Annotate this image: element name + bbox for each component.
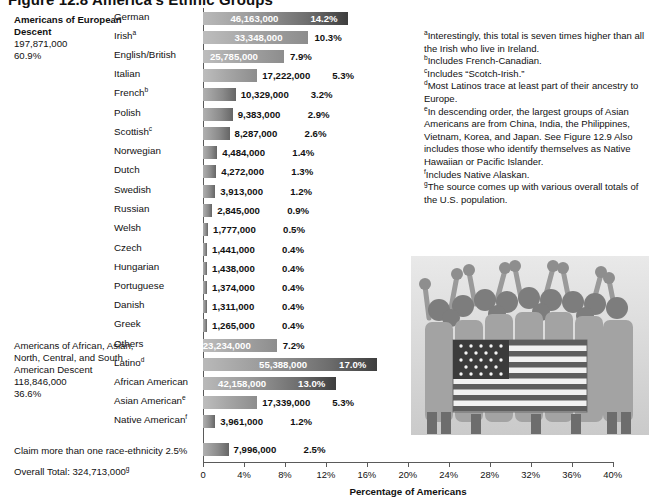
footnote-marker: d	[141, 356, 145, 363]
footnotes-block: aInterestingly, this total is seven time…	[424, 30, 650, 206]
bar-value-label: 4,272,000	[221, 166, 264, 177]
bar-value-label: 33,348,000	[234, 32, 282, 43]
bar-value-label: 55,388,000	[259, 359, 307, 370]
category-label-text: Latino	[114, 357, 141, 368]
bar-percent-label: 0.4%	[282, 244, 304, 255]
footnote-item: aInterestingly, this total is seven time…	[424, 30, 650, 55]
category-label-text: Scottish	[114, 126, 149, 137]
photo-group-with-flag	[411, 256, 649, 435]
category-label: Asian Americane	[114, 395, 186, 406]
bar-value-label: 1,374,000	[212, 282, 255, 293]
bar-percent-label: 14.2%	[310, 13, 337, 24]
bar-percent-label: 1.4%	[292, 147, 314, 158]
footnote-item: eIn descending order, the largest groups…	[424, 106, 650, 169]
bar-value-label: 1,441,000	[212, 244, 255, 255]
category-label-text: Welsh	[114, 222, 141, 233]
category-label: Norwegian	[114, 145, 161, 156]
category-label: Hungarian	[114, 261, 159, 272]
bar	[203, 204, 212, 217]
x-axis-tick-label: 20%	[398, 469, 417, 480]
category-label-text: Native American	[114, 414, 185, 425]
category-label-text: Norwegian	[114, 145, 161, 156]
x-axis-tick	[326, 462, 327, 467]
category-label: Welsh	[114, 222, 141, 233]
category-label-text: African American	[114, 376, 188, 387]
category-label: Italian	[114, 68, 140, 79]
footnote-marker: b	[424, 54, 428, 61]
bar-percent-label: 5.3%	[332, 70, 354, 81]
category-label-text: Czech	[114, 242, 142, 253]
bar	[203, 319, 207, 332]
footnote-marker: d	[424, 79, 428, 86]
bar	[203, 146, 217, 159]
category-label: Native Americanf	[114, 414, 187, 425]
overall-total-line: Overall Total: 324,713,000g	[14, 466, 130, 477]
x-axis-tick	[408, 462, 409, 467]
x-axis-tick-label: 8%	[278, 469, 292, 480]
overall-total-footnote-marker: g	[126, 465, 130, 472]
footnote-marker: e	[182, 394, 186, 401]
footnote-item: dMost Latinos trace at least part of the…	[424, 80, 650, 105]
category-label: Portuguese	[114, 280, 164, 291]
bar-percent-label: 0.5%	[283, 224, 305, 235]
bar-percent-label: 0.9%	[287, 205, 309, 216]
bar-value-label: 23,234,000	[203, 340, 251, 351]
footnote-marker: c	[424, 67, 427, 74]
bar	[203, 262, 207, 275]
figure-root: Figure 12.8 America's Ethnic Groups Amer…	[0, 0, 653, 502]
bar	[203, 185, 215, 198]
bar	[203, 396, 257, 409]
footnote-marker: a	[133, 29, 137, 36]
x-axis-tick	[367, 462, 368, 467]
x-axis-tick	[490, 462, 491, 467]
bar-percent-label: 5.3%	[332, 397, 354, 408]
category-label: German	[114, 11, 149, 22]
bar	[203, 165, 216, 178]
category-label: Danish	[114, 299, 145, 310]
category-label: Scottishc	[114, 126, 152, 137]
bar-value-label: 42,158,000	[218, 378, 266, 389]
bar	[203, 443, 229, 456]
footnote-marker: b	[145, 86, 149, 93]
footnote-item: cIncludes “Scotch-Irish.”	[424, 68, 650, 81]
bar-percent-label: 7.2%	[283, 340, 305, 351]
x-axis-tick-label: 16%	[357, 469, 376, 480]
category-label-text: Portuguese	[114, 280, 164, 291]
x-axis-tick-label: 4%	[237, 469, 251, 480]
category-label-text: Polish	[114, 107, 141, 118]
category-label: African American	[114, 376, 188, 387]
bar	[203, 223, 208, 236]
footnote-item: fIncludes Native Alaskan.	[424, 169, 650, 182]
category-label: Frenchb	[114, 87, 148, 98]
footnote-marker: g	[424, 180, 428, 187]
footnote-marker: a	[424, 29, 428, 36]
footnote-item: bIncludes French-Canadian.	[424, 55, 650, 68]
x-axis-tick-label: 40%	[603, 469, 622, 480]
bar-value-label: 4,484,000	[222, 147, 265, 158]
photo-svg	[411, 256, 649, 435]
category-label-text: German	[114, 11, 149, 22]
category-label: Czech	[114, 242, 142, 253]
bar-value-label: 1,438,000	[212, 263, 255, 274]
footnote-marker: f	[424, 167, 426, 174]
bar-value-label: 8,287,000	[235, 128, 278, 139]
bar-value-label: 1,777,000	[213, 224, 256, 235]
bar-value-label: 17,339,000	[262, 397, 310, 408]
category-label-text: Russian	[114, 203, 149, 214]
bar-percent-label: 7.9%	[290, 51, 312, 62]
x-axis-tick-label: 12%	[316, 469, 335, 480]
bar	[203, 127, 230, 140]
bar-percent-label: 0.4%	[282, 263, 304, 274]
x-axis-tick	[572, 462, 573, 467]
category-label-text: Irish	[114, 30, 133, 41]
bar	[203, 69, 257, 82]
category-label: Others	[114, 338, 143, 349]
footnote-marker: e	[424, 104, 428, 111]
x-axis-tick	[613, 462, 614, 467]
category-label-text: Italian	[114, 68, 140, 79]
bar-percent-label: 0.4%	[282, 282, 304, 293]
x-axis-tick	[449, 462, 450, 467]
bar-value-label: 2,845,000	[217, 205, 260, 216]
bar-percent-label: 1.3%	[291, 166, 313, 177]
claim-multiracial-label: Claim more than one race-ethnicity 2.5%	[14, 445, 187, 456]
